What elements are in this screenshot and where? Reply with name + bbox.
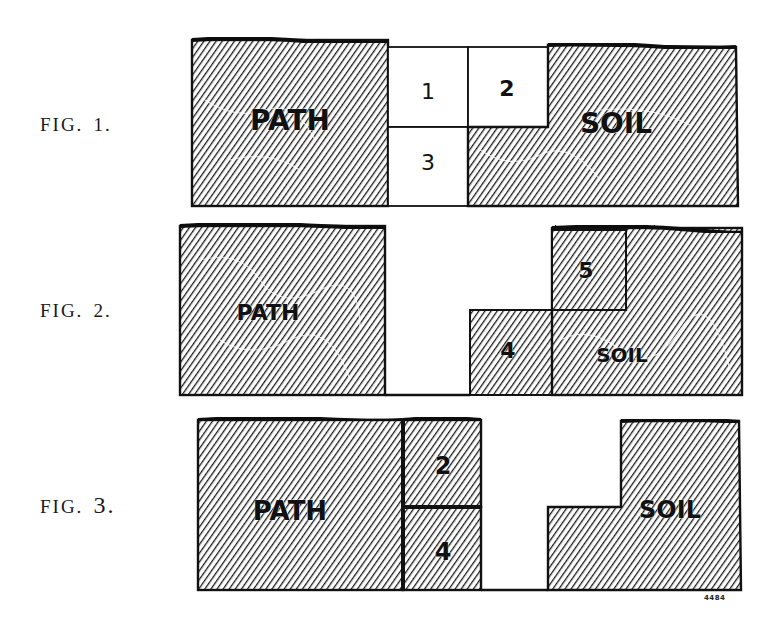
figure-2-box-4-label: 4 — [500, 338, 515, 363]
figure-2-box-4: 4 — [470, 310, 552, 395]
figure-3-soil-region: SOIL — [548, 419, 741, 590]
figure-1-box-3-label: 3 — [421, 150, 435, 175]
figure-3-path-label: PATH — [253, 496, 327, 526]
figure-3-box-4: 4 — [403, 507, 481, 590]
figure-1-soil-label: SOIL — [580, 107, 652, 140]
figure-2: PATH 4 SOIL 5 — [180, 224, 742, 395]
figure-3-box-2-label: 2 — [435, 452, 452, 480]
figure-2-box-5: 5 — [552, 230, 626, 310]
figure-3: PATH 2 4 SOIL — [198, 418, 741, 590]
figure-1: PATH 1 2 3 SOIL — [192, 38, 738, 206]
figure-2-soil-label: SOIL — [596, 343, 648, 367]
figure-2-box-5-label: 5 — [578, 258, 593, 283]
figure-1-path-region: PATH — [192, 38, 388, 206]
figure-2-path-label: PATH — [237, 300, 300, 325]
figure-3-soil-label: SOIL — [639, 496, 701, 524]
diagram-canvas: PATH 1 2 3 SOIL PATH — [0, 0, 775, 634]
figure-1-box-1-label: 1 — [421, 79, 435, 104]
figure-3-box-4-label: 4 — [435, 538, 452, 566]
figure-3-box-2: 2 — [403, 418, 481, 507]
figure-3-path-region: PATH — [198, 418, 403, 590]
figure-1-path-label: PATH — [250, 104, 330, 137]
plate-number: 4484 — [704, 594, 725, 602]
figure-1-box-2-label: 2 — [499, 76, 514, 101]
figure-2-path-region: PATH — [180, 224, 385, 395]
